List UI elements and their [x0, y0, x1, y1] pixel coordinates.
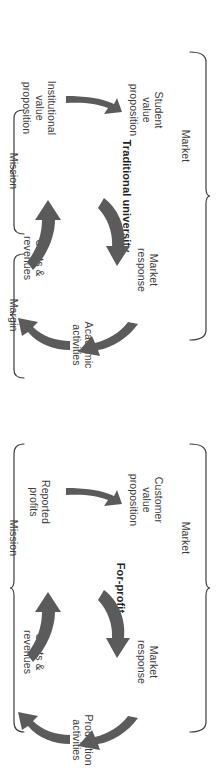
node-student-value-proposition: Student value proposition — [128, 65, 165, 155]
arrow-market-response-to-academic-activities — [84, 322, 142, 362]
node-market-response: Market response — [135, 617, 160, 707]
brace-market-label: Market — [180, 478, 192, 598]
arrow-institutional-to-student-value-proposition — [64, 86, 122, 116]
arrow-costs-revenues-to-reported-profits — [29, 590, 63, 666]
arrow-market-response-to-production-activities — [84, 716, 142, 756]
arrow-reported-profits-to-customer-value-proposition — [64, 478, 122, 508]
node-reported-profits: Reported profits — [27, 457, 52, 547]
brace-margin-label: Margin — [8, 265, 20, 365]
brace-market-label: Market — [180, 86, 192, 206]
node-market-response: Market response — [135, 225, 160, 315]
brace-mission-label: Mission — [8, 478, 20, 598]
diagram-for-profit: Market For-profit Customer value proposi… — [0, 424, 218, 761]
node-institutional-value-proposition: Institutional value proposition — [21, 58, 58, 158]
brace-mission-label: Mission — [8, 121, 20, 221]
arrow-costs-revenues-to-institutional-value-proposition — [29, 198, 63, 274]
diagram-traditional-university: Market Traditional university Student va… — [0, 0, 218, 400]
arrow-customer-to-market-response — [96, 588, 130, 662]
arrow-student-to-market-response — [96, 196, 130, 270]
node-customer-value-proposition: Customer value proposition — [128, 454, 165, 546]
